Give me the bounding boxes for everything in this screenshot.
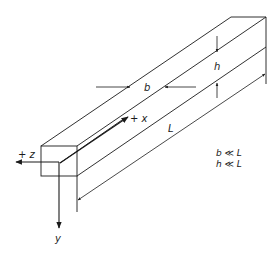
height-label: h — [214, 61, 220, 72]
condition-b-much-less-than-l: b ≪ L — [216, 148, 242, 158]
x-axis-arrow — [60, 117, 128, 163]
beam-diagram: + x + z y b h L b ≪ L h ≪ L — [0, 0, 280, 254]
length-label: L — [168, 123, 174, 134]
x-axis-label: + x — [130, 113, 148, 124]
beam-top-back-edge — [41, 17, 231, 146]
z-axis-label: + z — [18, 149, 36, 160]
length-dimension-line — [78, 74, 265, 200]
width-label: b — [144, 82, 150, 93]
y-axis-label: y — [54, 233, 62, 244]
condition-h-much-less-than-l: h ≪ L — [216, 159, 242, 169]
